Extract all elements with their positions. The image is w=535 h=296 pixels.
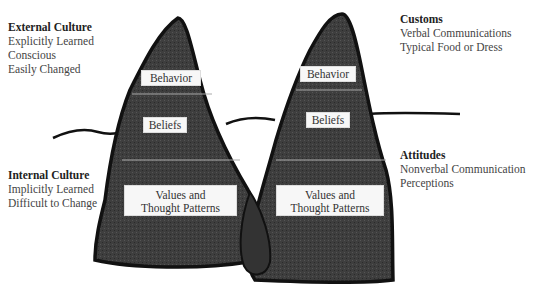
waterline-left (53, 130, 118, 138)
customs-annotation: Customs Verbal Communications Typical Fo… (400, 12, 511, 54)
right-iceberg (248, 14, 393, 282)
left-behavior-label: Behavior (141, 70, 201, 86)
internal-culture-annotation: Internal Culture Implicitly Learned Diff… (8, 168, 97, 210)
right-values-label: Values and Thought Patterns (276, 185, 384, 216)
waterline-middle (226, 118, 275, 124)
right-behavior-label: Behavior (300, 66, 356, 82)
left-values-label: Values and Thought Patterns (124, 185, 237, 216)
right-beliefs-label: Beliefs (306, 112, 350, 128)
external-culture-annotation: External Culture Explicitly Learned Cons… (8, 20, 94, 76)
left-beliefs-label: Beliefs (143, 117, 187, 133)
waterline-right (368, 113, 460, 114)
left-iceberg (95, 18, 257, 267)
attitudes-annotation: Attitudes Nonverbal Communication Percep… (400, 148, 526, 190)
